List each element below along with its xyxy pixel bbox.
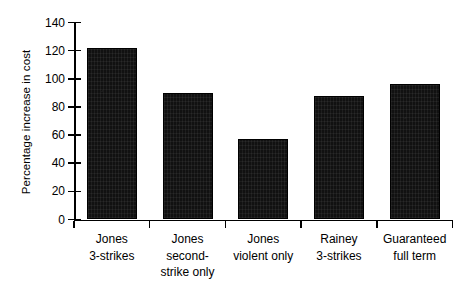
x-axis-line: [74, 220, 453, 222]
y-tick-label: 0: [29, 214, 65, 226]
bar-chart: Percentage increase in cost 020406080100…: [0, 0, 464, 301]
x-tick-mark: [376, 221, 378, 228]
x-tick-mark-origin: [73, 221, 75, 228]
y-tick-mark: [68, 134, 81, 136]
y-tick-label: 80: [29, 101, 65, 113]
x-tick-mark: [149, 221, 151, 228]
bar: [163, 93, 213, 220]
y-tick-label: 20: [29, 185, 65, 197]
y-tick-mark: [68, 162, 81, 164]
y-tick-label: 40: [29, 157, 65, 169]
y-tick-mark: [68, 78, 81, 80]
bar: [314, 96, 364, 220]
y-tick-mark: [68, 22, 81, 24]
y-tick-label: 100: [29, 73, 65, 85]
x-tick-mark: [300, 221, 302, 228]
y-tick-mark: [68, 106, 81, 108]
x-tick-mark: [225, 221, 227, 228]
y-tick-mark: [68, 191, 81, 193]
x-category-label: Guaranteedfull term: [369, 231, 461, 264]
bar: [238, 139, 288, 219]
y-tick-label: 120: [29, 45, 65, 57]
x-category-label-line: strike only: [142, 264, 234, 281]
bar: [87, 48, 137, 220]
bar: [390, 84, 440, 219]
y-tick-mark: [68, 50, 81, 52]
x-tick-mark: [452, 221, 454, 228]
y-tick-label: 60: [29, 129, 65, 141]
y-tick-label: 140: [29, 17, 65, 29]
x-axis-category-labels: Jones3-strikesJonessecond-strike onlyJon…: [74, 231, 453, 297]
y-axis-tick-labels: 020406080100120140: [29, 0, 65, 301]
x-category-label-line: full term: [369, 248, 461, 265]
x-category-label-line: Guaranteed: [369, 231, 461, 248]
